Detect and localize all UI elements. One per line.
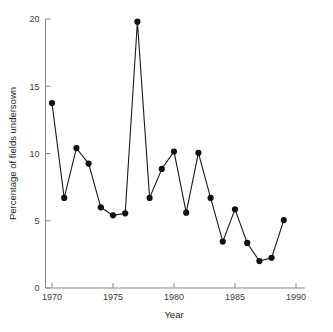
data-point [61,195,67,201]
data-point [220,239,226,245]
data-point [269,255,275,261]
data-point [110,212,116,218]
data-point [256,258,262,264]
x-axis-title: Year [164,309,183,320]
data-point [73,145,79,151]
series-polyline [52,22,284,261]
x-tick-label: 1975 [103,292,123,302]
data-point [232,206,238,212]
data-point [134,19,140,25]
data-point [98,204,104,210]
y-tick-label: 10 [29,149,39,159]
y-axis: 05101520 [29,14,50,293]
data-point [86,160,92,166]
data-point [244,240,250,246]
y-tick-label: 15 [29,82,39,92]
data-point [281,217,287,223]
data-point [159,166,165,172]
axis-labels: YearPercentage of fields undersown [7,87,184,320]
x-tick-label: 1980 [164,292,184,302]
data-point [49,100,55,106]
y-tick-label: 20 [29,14,39,24]
data-point [195,150,201,156]
data-point [183,210,189,216]
data-point [208,195,214,201]
chart-canvas: 05101520 19701975198019851990 YearPercen… [0,0,333,332]
y-tick-label: 5 [34,216,39,226]
data-point [171,148,177,154]
data-point [122,210,128,216]
x-tick-label: 1970 [42,292,62,302]
data-point [147,195,153,201]
y-axis-title: Percentage of fields undersown [7,87,18,220]
y-tick-label: 0 [34,283,39,293]
x-axis: 19701975198019851990 [42,283,306,302]
x-tick-label: 1985 [225,292,245,302]
data-series-undersown [49,19,287,265]
x-tick-label: 1990 [286,292,306,302]
line-chart: 05101520 19701975198019851990 YearPercen… [0,0,333,332]
